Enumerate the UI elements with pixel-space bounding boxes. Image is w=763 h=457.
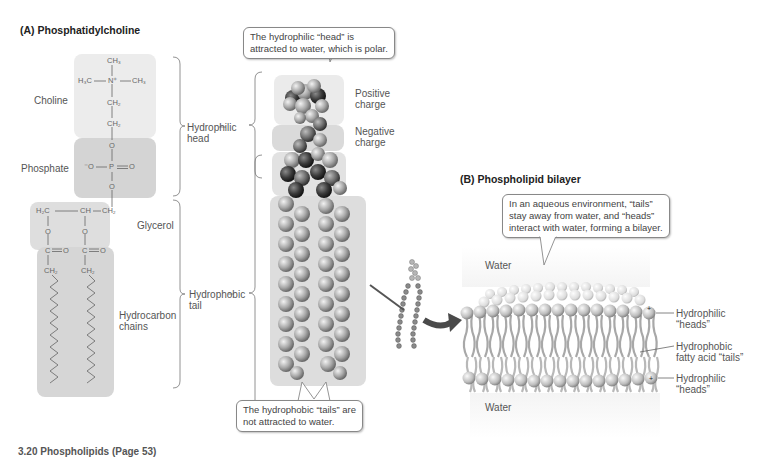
label-hydrophilic-heads-bottom: Hydrophilic “heads” bbox=[676, 373, 725, 395]
heads-bottom-line2: “heads” bbox=[676, 384, 725, 395]
label-hydrophobic-tails: Hydrophobic fatty acid “tails” bbox=[676, 341, 743, 363]
heads-top-line1: Hydrophilic bbox=[676, 308, 725, 319]
heads-bottom-line1: Hydrophilic bbox=[676, 373, 725, 384]
figure-caption-clipped: 3.20 Phospholipids (Page 53) bbox=[18, 446, 156, 457]
tails-line2: fatty acid “tails” bbox=[676, 352, 743, 363]
label-hydrophilic-heads-top: Hydrophilic “heads” bbox=[676, 308, 725, 330]
svg-text:+: + bbox=[649, 375, 653, 382]
heads-top-line2: “heads” bbox=[676, 319, 725, 330]
tails-line1: Hydrophobic bbox=[676, 341, 743, 352]
svg-text:+: + bbox=[647, 305, 651, 312]
